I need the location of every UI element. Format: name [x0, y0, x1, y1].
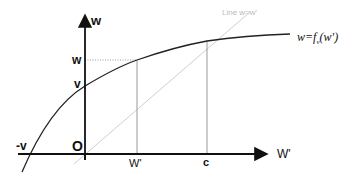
svg-text:w=fv(w'): w=fv(w'): [297, 30, 338, 46]
tick-label-w: w: [71, 53, 82, 67]
curve-f-v: [22, 34, 290, 172]
curve-label: w=fv(w'): [297, 30, 338, 46]
diagonal-label: Line w=w': [222, 8, 258, 17]
tick-label-c: c: [203, 156, 209, 168]
origin-label: O: [72, 138, 83, 154]
tick-label-w-prime: W': [129, 157, 141, 169]
diagonal-line: [74, 12, 250, 164]
x-axis-label: W': [277, 147, 291, 161]
tick-label-v: v: [74, 77, 81, 91]
tick-label-neg-v: -v: [16, 139, 27, 153]
y-axis-label: w: [90, 13, 102, 28]
diagram-canvas: w w v -v O W' c W' Line w=w' w=fv(w'): [0, 0, 357, 181]
